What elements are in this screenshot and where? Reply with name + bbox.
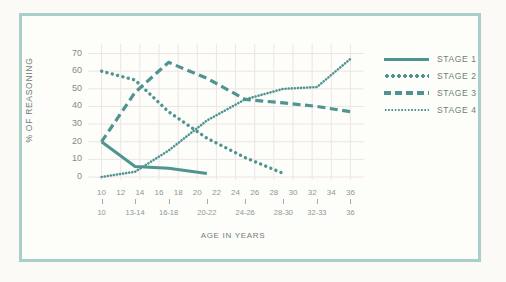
legend-label: STAGE 1 — [437, 54, 476, 64]
legend-item-stage-3[interactable]: STAGE 3 — [384, 86, 476, 100]
series-line-stage-3 — [102, 62, 351, 141]
y-tick-label: 70 — [58, 48, 82, 58]
legend-swatch — [384, 91, 429, 95]
chart-area: 010203040506070 % OF REASONING 101214161… — [0, 0, 506, 282]
y-tick-label: 60 — [58, 65, 82, 75]
x-tickmark — [350, 199, 351, 204]
x-tick-label-secondary: 36 — [328, 208, 372, 217]
legend-label: STAGE 4 — [437, 105, 476, 115]
legend-swatch — [384, 74, 429, 78]
x-tickmark — [135, 199, 136, 204]
legend-item-stage-1[interactable]: STAGE 1 — [384, 52, 476, 66]
legend-item-stage-4[interactable]: STAGE 4 — [384, 103, 476, 117]
x-tickmark — [317, 199, 318, 204]
x-tickmark — [169, 199, 170, 204]
y-tick-label: 30 — [58, 118, 82, 128]
x-tickmark — [283, 199, 284, 204]
x-tickmark — [102, 199, 103, 204]
legend-label: STAGE 3 — [437, 88, 476, 98]
y-tick-label: 10 — [58, 153, 82, 163]
series-line-stage-2 — [102, 71, 284, 173]
legend-swatch — [384, 108, 429, 112]
x-tick-label-primary: 36 — [335, 188, 365, 197]
y-tick-label: 20 — [58, 136, 82, 146]
series-line-stage-1 — [102, 142, 207, 174]
gridlines — [88, 44, 364, 180]
legend-label: STAGE 2 — [437, 71, 476, 81]
y-tick-label: 50 — [58, 83, 82, 93]
y-tick-label: 40 — [58, 100, 82, 110]
legend-item-stage-2[interactable]: STAGE 2 — [384, 69, 476, 83]
x-axis-title: AGE IN YEARS — [178, 231, 288, 240]
x-tickmark — [245, 199, 246, 204]
y-axis-title: % OF REASONING — [24, 45, 34, 155]
y-tick-label: 0 — [58, 171, 82, 181]
legend-swatch — [384, 58, 429, 61]
x-tickmark — [207, 199, 208, 204]
